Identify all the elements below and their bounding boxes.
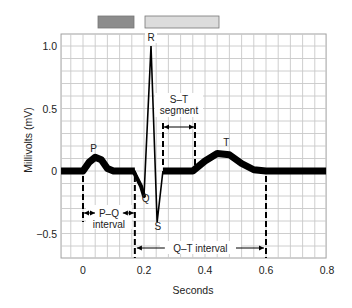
wave-label-s: S (154, 221, 161, 232)
legend-swatches (98, 16, 219, 28)
dark-swatch (98, 16, 134, 28)
y-tick-label: 0.5 (42, 103, 57, 115)
st-segment-label: S–T (170, 94, 188, 105)
y-tick-label: 0 (51, 165, 57, 177)
wave-label-r: R (147, 32, 154, 43)
x-axis-title: Seconds (173, 284, 214, 296)
pq-interval-label: P–Q (99, 208, 119, 219)
wave-label-p: P (90, 143, 97, 154)
wave-label-q: Q (142, 193, 150, 204)
qt-interval-label: Q–T interval (173, 243, 227, 254)
wave-label-t: T (223, 137, 229, 148)
y-tick-label: 1.0 (42, 40, 57, 52)
st-segment-label-2: segment (160, 105, 199, 116)
ecg-chart: P–QintervalS–TsegmentQ–T interval PQRST … (0, 0, 352, 308)
y-axis-title: Millivolts (mV) (22, 107, 34, 172)
x-tick-label: 0 (80, 264, 86, 276)
x-tick-label: 0.4 (198, 264, 213, 276)
x-tick-label: 0.8 (320, 264, 335, 276)
x-tick-label: 0.6 (259, 264, 274, 276)
light-swatch (145, 16, 219, 28)
y-tick-label: −0.5 (36, 228, 57, 240)
pq-interval-label-2: interval (93, 219, 125, 230)
x-tick-label: 0.2 (137, 264, 152, 276)
